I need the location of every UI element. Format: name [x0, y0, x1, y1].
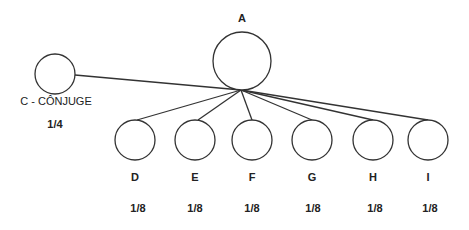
node-e	[175, 120, 215, 160]
node-c	[35, 54, 75, 94]
edge-a-i	[241, 90, 428, 120]
node-h	[353, 120, 393, 160]
edge-a-d	[137, 90, 241, 120]
node-i-share: 1/8	[422, 202, 437, 214]
node-d-share: 1/8	[130, 202, 145, 214]
node-a	[213, 32, 271, 90]
node-d-label: D	[131, 171, 139, 183]
edge-a-e	[198, 90, 241, 120]
edge-a-h	[241, 90, 373, 120]
edge-a-g	[241, 90, 312, 120]
node-g	[292, 120, 332, 160]
node-f-share: 1/8	[244, 202, 259, 214]
node-g-share: 1/8	[305, 202, 320, 214]
node-h-label: H	[369, 171, 377, 183]
inheritance-diagram	[0, 0, 469, 230]
node-i-label: I	[426, 171, 429, 183]
node-a-label: A	[238, 12, 246, 24]
edge-a-c	[75, 75, 241, 90]
node-i	[408, 120, 448, 160]
node-g-label: G	[308, 171, 317, 183]
node-f	[232, 120, 272, 160]
node-e-label: E	[191, 171, 198, 183]
node-f-label: F	[249, 171, 256, 183]
node-e-share: 1/8	[187, 202, 202, 214]
node-h-share: 1/8	[367, 202, 382, 214]
node-c-share: 1/4	[47, 118, 62, 130]
node-c-label: C - CÔNJUGE	[20, 95, 92, 107]
node-d	[115, 120, 155, 160]
